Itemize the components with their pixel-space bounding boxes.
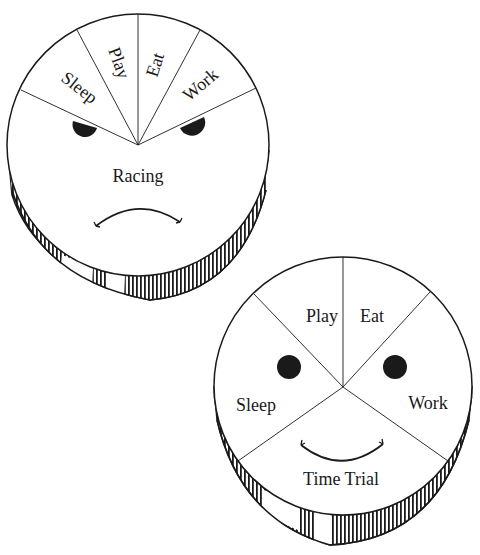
time-trial-label-work: Work	[408, 393, 448, 413]
diagram-canvas: Sleep Play Eat Work Racing Play Eat	[0, 0, 480, 555]
time-trial-puck: Play Eat Work Time Trial Sleep	[214, 257, 472, 545]
time-trial-title: Time Trial	[303, 469, 379, 489]
time-trial-label-eat: Eat	[360, 306, 384, 326]
racing-title: Racing	[113, 166, 164, 186]
time-trial-label-sleep: Sleep	[236, 395, 276, 415]
time-trial-label-play: Play	[306, 306, 338, 326]
time-trial-right-eye-icon	[383, 355, 407, 379]
time-trial-left-eye-icon	[277, 355, 301, 379]
racing-puck: Sleep Play Eat Work Racing	[7, 14, 269, 300]
